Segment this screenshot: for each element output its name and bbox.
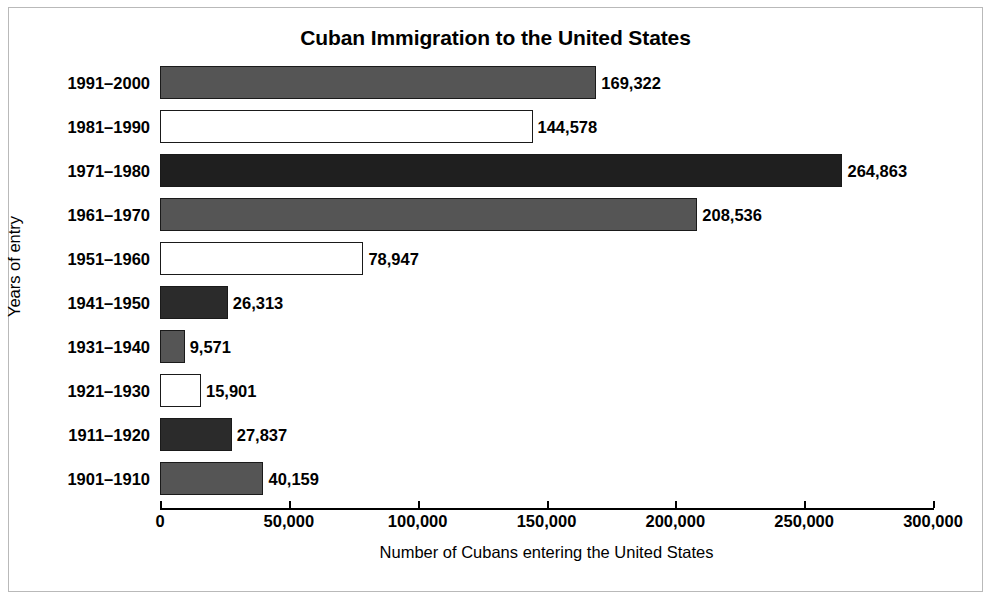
y-axis-tick-label: 1951–1960 [67, 250, 150, 269]
bar[interactable] [160, 374, 201, 407]
y-axis-tick-row: 1911–1920 [0, 413, 150, 457]
bar-band: 27,837 [160, 413, 933, 457]
bar-band: 78,947 [160, 237, 933, 281]
bar-value-label: 15,901 [201, 382, 256, 401]
y-axis-tick-label: 1941–1950 [67, 294, 150, 313]
bar-band: 9,571 [160, 325, 933, 369]
y-axis-tick-label: 1921–1930 [67, 382, 150, 401]
y-axis-tick-label: 1981–1990 [67, 118, 150, 137]
y-axis-tick-label: 1991–2000 [67, 74, 150, 93]
bar-value-label: 9,571 [185, 338, 231, 357]
bar-value-label: 144,578 [533, 118, 598, 137]
bar-value-label: 26,313 [228, 294, 283, 313]
x-axis-tick-label: 100,000 [388, 512, 448, 531]
bar-band: 15,901 [160, 369, 933, 413]
bar[interactable] [160, 418, 232, 451]
bar[interactable] [160, 286, 228, 319]
chart-title: Cuban Immigration to the United States [0, 26, 991, 50]
x-axis-tick [418, 501, 420, 508]
y-axis-tick-label: 1961–1970 [67, 206, 150, 225]
bar[interactable] [160, 154, 842, 187]
x-axis-tick [675, 501, 677, 508]
x-axis-tick [160, 501, 162, 508]
x-axis-tick-label: 0 [155, 512, 164, 531]
bar-band: 208,536 [160, 193, 933, 237]
x-axis-tick-label: 150,000 [517, 512, 577, 531]
x-axis-tick-label: 250,000 [774, 512, 834, 531]
bar[interactable] [160, 242, 363, 275]
x-axis-tick [933, 501, 935, 508]
x-axis-tick-label: 300,000 [903, 512, 963, 531]
bar[interactable] [160, 330, 185, 363]
bar-value-label: 169,322 [596, 74, 661, 93]
bar-band: 169,322 [160, 61, 933, 105]
bar[interactable] [160, 462, 263, 495]
y-axis-title: Years of entry [5, 177, 24, 357]
x-axis-tick [547, 501, 549, 508]
y-axis-tick-label: 1901–1910 [67, 470, 150, 489]
bar[interactable] [160, 66, 596, 99]
x-axis-tick-label: 50,000 [264, 512, 314, 531]
y-axis-tick-label: 1911–1920 [68, 426, 150, 445]
bar-band: 264,863 [160, 149, 933, 193]
bar-value-label: 208,536 [697, 206, 762, 225]
plot-area: 169,322144,578264,863208,53678,94726,313… [160, 61, 933, 501]
x-axis-tick-label: 200,000 [646, 512, 706, 531]
x-axis-tick [289, 501, 291, 508]
chart-page: Cuban Immigration to the United States 1… [0, 0, 991, 600]
bar-value-label: 27,837 [232, 426, 287, 445]
bar-band: 40,159 [160, 457, 933, 501]
bar-band: 26,313 [160, 281, 933, 325]
bar[interactable] [160, 198, 697, 231]
x-axis-line [160, 508, 934, 510]
y-axis-tick-label: 1931–1940 [67, 338, 150, 357]
bar[interactable] [160, 110, 533, 143]
y-axis-tick-row: 1991–2000 [0, 61, 150, 105]
y-axis-tick-label: 1971–1980 [67, 162, 150, 181]
bar-value-label: 40,159 [263, 470, 318, 489]
y-axis-tick-row: 1921–1930 [0, 369, 150, 413]
y-axis-tick-row: 1901–1910 [0, 457, 150, 501]
bar-value-label: 78,947 [363, 250, 418, 269]
y-axis-tick-row: 1981–1990 [0, 105, 150, 149]
x-axis-tick [804, 501, 806, 508]
x-axis-title: Number of Cubans entering the United Sta… [160, 543, 933, 562]
bar-band: 144,578 [160, 105, 933, 149]
bar-value-label: 264,863 [842, 162, 907, 181]
